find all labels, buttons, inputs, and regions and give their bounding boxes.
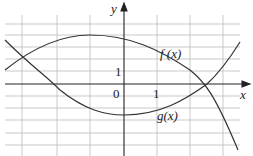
chart-canvas bbox=[0, 0, 253, 156]
y-tick-label: 1 bbox=[115, 65, 122, 78]
x-axis-label: x bbox=[240, 88, 246, 101]
f-label: f (x) bbox=[160, 47, 181, 60]
g-label: g(x) bbox=[157, 109, 178, 122]
origin-label: 0 bbox=[113, 87, 120, 100]
g-curve bbox=[5, 40, 240, 115]
y-axis-label: y bbox=[111, 2, 117, 15]
x-tick-label: 1 bbox=[153, 87, 160, 100]
